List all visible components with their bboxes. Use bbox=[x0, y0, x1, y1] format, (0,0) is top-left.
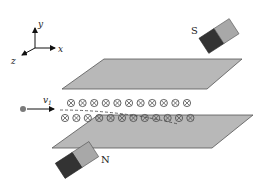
charged-particle bbox=[20, 106, 26, 112]
y-axis-label: y bbox=[37, 19, 44, 29]
field-into-page-icon bbox=[73, 114, 80, 121]
field-into-page-icon bbox=[102, 99, 109, 106]
field-into-page-icon bbox=[79, 99, 86, 106]
upper-plate bbox=[62, 59, 242, 89]
magnetic-deflection-diagram: y x z S v1 N bbox=[0, 0, 259, 189]
magnet-south bbox=[199, 19, 239, 54]
field-into-page-icon bbox=[137, 99, 144, 106]
coordinate-axes: y x z bbox=[10, 19, 63, 66]
field-into-page-icon bbox=[172, 99, 179, 106]
field-into-page-icon bbox=[114, 99, 121, 106]
field-into-page-icon bbox=[91, 99, 98, 106]
south-pole-label: S bbox=[191, 25, 198, 36]
field-into-page-icon bbox=[67, 99, 74, 106]
z-axis-label: z bbox=[10, 56, 16, 66]
field-into-page-icon bbox=[149, 99, 156, 106]
field-into-page-icon bbox=[61, 114, 68, 121]
field-row-top bbox=[67, 99, 190, 106]
field-into-page-icon bbox=[125, 99, 132, 106]
x-axis-label: x bbox=[58, 44, 63, 54]
velocity-label: v1 bbox=[43, 95, 52, 106]
north-pole-label: N bbox=[101, 154, 110, 165]
z-axis-arrow bbox=[22, 48, 35, 55]
field-into-page-icon bbox=[160, 99, 167, 106]
field-into-page-icon bbox=[183, 99, 190, 106]
field-into-page-icon bbox=[84, 114, 91, 121]
lower-plate bbox=[52, 115, 253, 148]
